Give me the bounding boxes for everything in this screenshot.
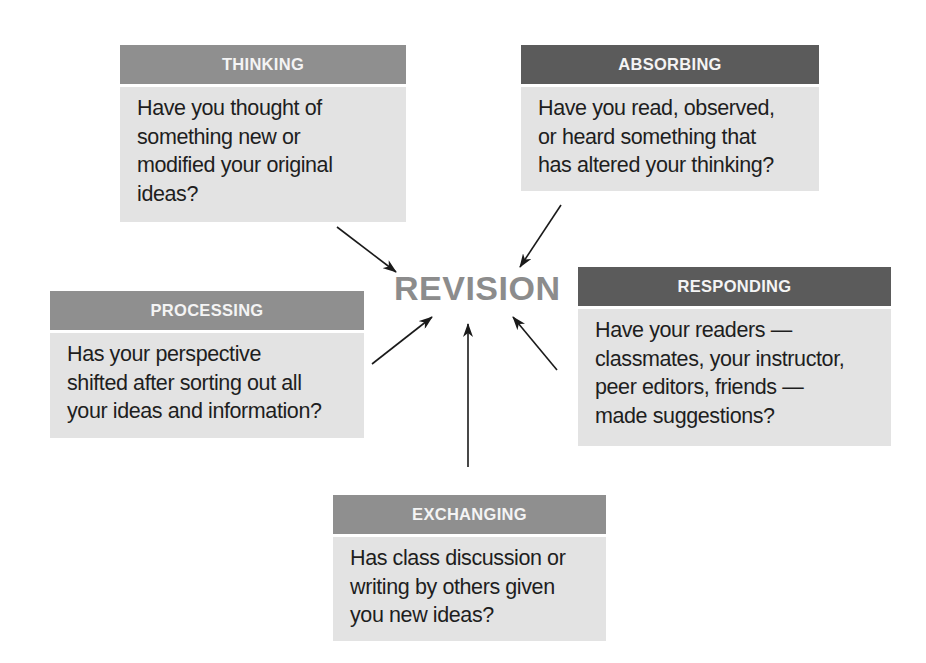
node-thinking-title: THINKING	[120, 45, 406, 84]
node-processing: PROCESSING Has your perspective shifted …	[50, 291, 364, 438]
revision-label: REVISION	[394, 271, 560, 305]
node-responding-text: Have your readers — classmates, your ins…	[578, 309, 891, 446]
arrow-thinking-to-revision	[337, 227, 396, 272]
arrow-absorbing-to-revision	[520, 205, 561, 267]
node-processing-text: Has your perspective shifted after sorti…	[50, 333, 364, 438]
node-thinking-text: Have you thought of something new or mod…	[120, 87, 406, 222]
node-absorbing-text: Have you read, observed, or heard someth…	[521, 87, 819, 191]
node-responding-title: RESPONDING	[578, 267, 891, 306]
node-exchanging: EXCHANGING Has class discussion or writi…	[333, 495, 606, 641]
node-responding: RESPONDING Have your readers — classmate…	[578, 267, 891, 446]
arrow-processing-to-revision	[372, 317, 432, 364]
arrow-responding-to-revision	[513, 317, 557, 370]
node-processing-title: PROCESSING	[50, 291, 364, 330]
node-absorbing: ABSORBING Have you read, observed, or he…	[521, 45, 819, 191]
node-thinking: THINKING Have you thought of something n…	[120, 45, 406, 222]
node-exchanging-title: EXCHANGING	[333, 495, 606, 534]
node-exchanging-text: Has class discussion or writing by other…	[333, 537, 606, 641]
node-absorbing-title: ABSORBING	[521, 45, 819, 84]
